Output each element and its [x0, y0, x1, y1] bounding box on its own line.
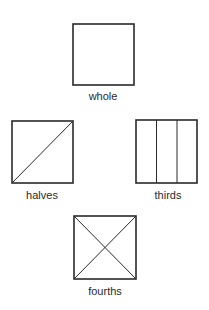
figure-fourths [73, 215, 137, 280]
label-halves: halves [2, 189, 82, 201]
label-fourths: fourths [65, 285, 145, 297]
figure-thirds [135, 119, 198, 184]
fourths-square-shape [73, 215, 137, 280]
thirds-square-shape [135, 119, 198, 184]
label-whole: whole [63, 90, 143, 102]
halves-square-shape [11, 120, 74, 184]
figure-whole [72, 23, 135, 86]
label-thirds: thirds [128, 189, 208, 201]
whole-square-shape [72, 23, 135, 86]
figure-halves [11, 120, 74, 184]
